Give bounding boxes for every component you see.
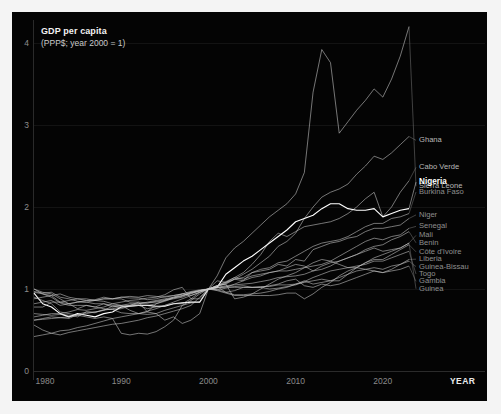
line-series	[34, 266, 409, 300]
series-label-benin: Benin	[419, 239, 438, 247]
line-series	[34, 245, 409, 315]
chart-figure: 43210 19801990200020102020 GDP per capit…	[12, 12, 487, 401]
label-leader-line	[409, 251, 416, 274]
line-series	[34, 218, 409, 308]
series-label-cabo-verde: Cabo Verde	[419, 163, 459, 171]
label-leader-line	[409, 215, 416, 219]
series-label-guinea: Guinea	[419, 285, 444, 293]
line-series	[34, 136, 409, 334]
series-label-burkina-faso: Burkina Faso	[419, 188, 464, 196]
series-label-ghana: Ghana	[419, 136, 442, 144]
label-leader-line	[409, 266, 416, 281]
label-leader-line	[409, 226, 416, 228]
series-label-senegal: Senegal	[419, 222, 447, 230]
series-label-niger: Niger	[419, 211, 437, 219]
x-axis-title: YEAR	[450, 376, 475, 386]
series-label-nigeria: Nigeria	[419, 178, 447, 186]
label-leader-line	[409, 27, 416, 187]
label-leader-line	[409, 235, 416, 243]
label-leader-line	[409, 232, 416, 243]
image-frame: 43210 19801990200020102020 GDP per capit…	[0, 0, 501, 414]
label-leader-line	[409, 167, 416, 180]
series-lines	[12, 12, 487, 401]
label-leader-line	[409, 136, 416, 140]
